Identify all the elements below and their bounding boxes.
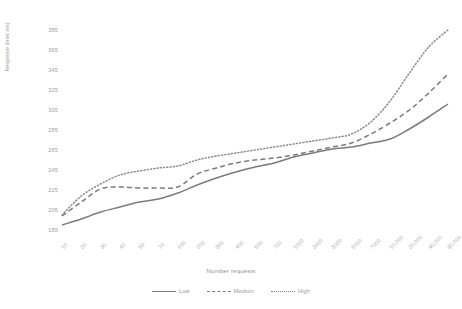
x-tick-label: 400 xyxy=(234,239,245,250)
legend-label: Low xyxy=(179,288,190,294)
legend-label: High xyxy=(298,288,310,294)
legend-item-high[interactable]: High xyxy=(271,288,310,294)
x-tick-label: 20 xyxy=(79,242,88,251)
legend-item-low[interactable]: Low xyxy=(152,288,190,294)
legend-label: Medium xyxy=(234,288,255,294)
x-tick-label: 5000 xyxy=(350,237,363,250)
legend-swatch-dashed-icon xyxy=(207,291,231,292)
x-tick-label: 40 xyxy=(118,242,127,251)
x-axis-title: Number requests xyxy=(0,268,462,274)
x-tick-label: 50 xyxy=(137,242,146,251)
x-tick-label: 100 xyxy=(176,239,187,250)
x-tick-label: 70 xyxy=(157,242,166,251)
response-time-line-chart: Response time( ms) 185205225245265285305… xyxy=(0,0,462,309)
x-tick-label: 2000 xyxy=(311,237,324,250)
x-tick-label: 1000 xyxy=(292,237,305,250)
x-tick-label: 10 xyxy=(60,242,69,251)
legend-swatch-dotted-icon xyxy=(271,291,295,292)
x-tick-label: 10,000 xyxy=(388,234,404,250)
x-tick-label: 700 xyxy=(272,239,283,250)
x-tick-label: 30 xyxy=(99,242,108,251)
x-tick-label: 7000 xyxy=(369,237,382,250)
x-tick-label: 40,000 xyxy=(427,234,443,250)
legend-item-medium[interactable]: Medium xyxy=(207,288,255,294)
x-tick-label: 200 xyxy=(195,239,206,250)
chart-legend: LowMediumHigh xyxy=(0,288,462,294)
x-tick-label: 500 xyxy=(253,239,264,250)
x-tick-label: 3000 xyxy=(330,237,343,250)
x-axis-tick-labels: 1020304050701002003004005007001000200030… xyxy=(0,0,462,309)
x-tick-label: 300 xyxy=(214,239,225,250)
x-tick-label: 80,000 xyxy=(446,234,462,250)
x-tick-label: 20,000 xyxy=(407,234,423,250)
legend-swatch-solid-icon xyxy=(152,291,176,292)
